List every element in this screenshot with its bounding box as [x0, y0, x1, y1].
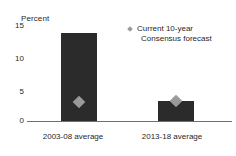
x-axis-label-2013-18: 2013-18 average	[124, 132, 220, 141]
x-axis-line	[27, 121, 232, 122]
y-tick-label-10: 10	[0, 55, 24, 63]
y-tick-label-0: 0	[0, 117, 24, 125]
x-axis-label-2003-08: 2003-08 average	[25, 132, 121, 141]
chart-container: Percent 15 10 5 0 2003-08 average 2013-1…	[0, 0, 236, 156]
chart-legend: Current 10-year Consensus forecast	[128, 24, 212, 43]
legend-label-line-1: Current 10-year	[128, 24, 212, 34]
y-tick-label-15: 15	[0, 22, 24, 30]
legend-label-line-2: Consensus forecast	[128, 34, 212, 44]
y-tick-label-5: 5	[0, 88, 24, 96]
legend-item-consensus-forecast: Current 10-year Consensus forecast	[128, 24, 212, 43]
